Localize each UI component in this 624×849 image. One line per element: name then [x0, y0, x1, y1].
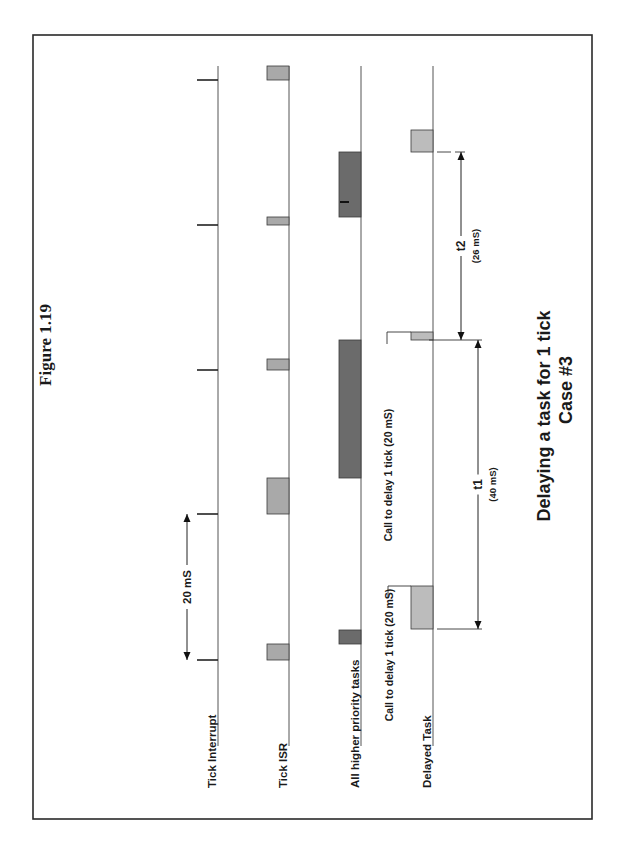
tracks-group: Tick InterruptTick ISRAll higher priorit…	[206, 66, 433, 788]
execution-box-delayed-task	[411, 130, 433, 152]
track-label-higher-priority: All higher priority tasks	[349, 660, 361, 788]
execution-box-delayed-task	[411, 332, 433, 340]
timing-diagram: Figure 1.19 Tick InterruptTick ISRAll hi…	[0, 0, 624, 849]
execution-box-higher-priority	[339, 630, 361, 644]
execution-box-tick-isr	[267, 644, 289, 660]
track-label-tick-interrupt: Tick Interrupt	[206, 715, 218, 788]
tick-marks-group	[197, 80, 218, 660]
t2-label: t2	[454, 240, 468, 251]
t2-value: (26 mS)	[470, 229, 481, 263]
t1-arrow-head-down	[475, 621, 482, 629]
diagram-title-line2: Case #3	[556, 356, 576, 424]
call-delay-1-label: Call to delay 1 tick (20 mS)	[382, 409, 394, 541]
period-arrow-head-down	[184, 652, 191, 660]
t2-arrow-head-down	[458, 332, 465, 340]
execution-box-tick-isr	[267, 217, 289, 225]
track-label-tick-isr: Tick ISR	[277, 742, 289, 788]
period-arrow-head-up	[184, 514, 191, 522]
t1-arrow-head-up	[475, 340, 482, 348]
execution-boxes-group	[267, 66, 433, 660]
execution-box-higher-priority	[339, 152, 361, 217]
call-delay-2-label: Call to delay 1 tick (20 mS)	[383, 589, 395, 721]
context-switch-mark	[340, 201, 349, 203]
period-label: 20 mS	[181, 570, 193, 604]
track-label-delayed-task: Delayed Task	[421, 715, 433, 788]
diagram-title-line1: Delaying a task for 1 tick	[534, 309, 554, 521]
execution-box-tick-isr	[267, 478, 289, 514]
execution-box-higher-priority	[339, 340, 361, 478]
t2-arrow-head-up	[458, 152, 465, 160]
t1-value: (40 mS)	[487, 467, 498, 501]
execution-box-tick-isr	[267, 66, 289, 80]
figure-label: Figure 1.19	[36, 304, 55, 386]
execution-box-delayed-task	[411, 586, 433, 629]
execution-box-tick-isr	[267, 359, 289, 370]
call-delay_1-bracket	[387, 332, 411, 344]
figure-frame	[33, 35, 592, 819]
t1-label: t1	[471, 479, 485, 490]
